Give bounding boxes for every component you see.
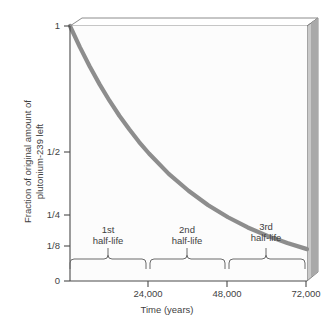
y-tick-label-1: 1 (36, 20, 60, 31)
y-tick-marks (64, 26, 70, 281)
box-right-wall-shade (311, 18, 318, 277)
y-axis-title-line2: plutonium-239 left (33, 67, 45, 257)
y-axis-title-line1: Fraction of original amount of (22, 67, 34, 257)
third-half-life-line1: 3rd (236, 221, 296, 232)
x-tick-label-48000: 48,000 (197, 288, 257, 299)
third-half-life-line2: half-life (236, 232, 296, 243)
second-half-life-label: 2nd half-life (157, 224, 217, 246)
third-half-life-label: 3rd half-life (236, 221, 296, 243)
y-axis-title: Fraction of original amount of plutonium… (22, 67, 45, 257)
x-tick-marks (148, 281, 306, 287)
first-half-life-line2: half-life (78, 235, 138, 246)
x-tick-label-24000: 24,000 (118, 288, 178, 299)
decay-chart-figure: 1 1/2 1/4 1/8 0 24,000 48,000 72,000 1st… (0, 0, 334, 329)
y-tick-label-zero: 0 (36, 275, 60, 286)
first-half-life-label: 1st half-life (78, 224, 138, 246)
x-axis-title: Time (years) (0, 304, 334, 315)
x-tick-label-72000: 72,000 (276, 288, 334, 299)
box-top-panel (70, 18, 318, 26)
second-half-life-line1: 2nd (157, 224, 217, 235)
second-half-life-line2: half-life (157, 235, 217, 246)
first-half-life-line1: 1st (78, 224, 138, 235)
